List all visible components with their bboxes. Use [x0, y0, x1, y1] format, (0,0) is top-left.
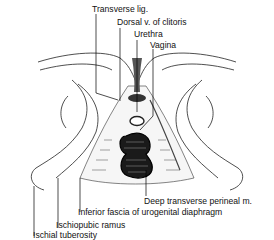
label-ischiopubic-ramus: Ischiopubic ramus	[56, 220, 125, 230]
urethra-opening	[130, 117, 144, 126]
label-vagina: Vagina	[150, 40, 176, 50]
label-urethra: Urethra	[134, 29, 163, 39]
label-inferior-fascia: Inferior fascia of urogenital diaphragm	[78, 207, 222, 217]
label-dorsal-vein-clitoris: Dorsal v. of clitoris	[117, 17, 187, 27]
vaginal-opening	[120, 133, 152, 178]
label-ischial-tuberosity: Ischial tuberosity	[33, 230, 97, 240]
label-transverse-lig: Transverse lig.	[92, 4, 148, 14]
label-deep-transverse-perineal-m: Deep transverse perineal m.	[144, 196, 252, 206]
